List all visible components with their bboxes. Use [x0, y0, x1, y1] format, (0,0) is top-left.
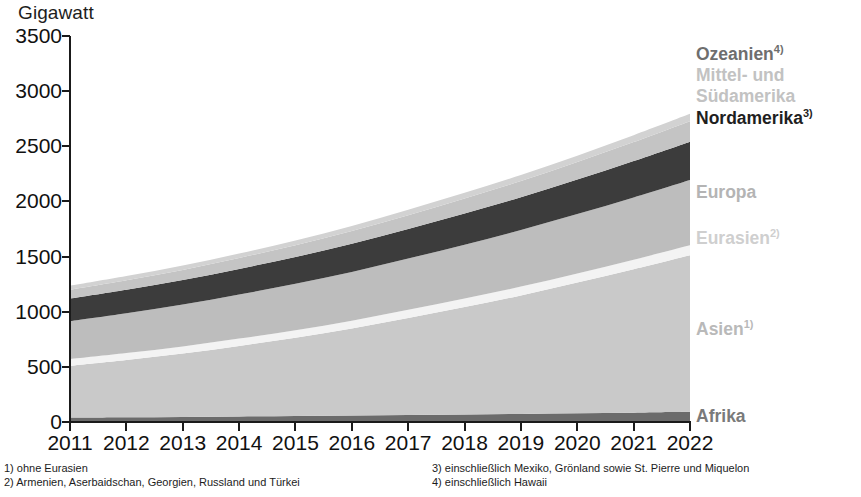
legend-item-asien: Asien1) [696, 319, 753, 339]
x-axis-tick [182, 423, 184, 431]
x-axis-tick-label: 2019 [498, 432, 545, 453]
y-axis-tick [62, 145, 70, 147]
x-axis-tick-label: 2017 [385, 432, 432, 453]
x-axis-tick-label: 2016 [328, 432, 375, 453]
x-axis-tick [69, 423, 71, 431]
footnotes-right-column: 3) einschließlich Mexiko, Grönland sowie… [432, 462, 857, 489]
y-axis-tick-label: 2500 [0, 135, 62, 156]
x-axis-tick [689, 423, 691, 431]
legend-item-label: Europa [696, 182, 756, 202]
y-axis-tick [62, 256, 70, 258]
x-axis-tick-label: 2013 [159, 432, 206, 453]
legend: Ozeanien4)Mittel- undSüdamerikaNordameri… [696, 44, 861, 424]
y-axis-tick-label: 0 [0, 411, 62, 432]
legend-item-label: Nordamerika [696, 108, 803, 128]
y-axis-tick-label: 3000 [0, 80, 62, 101]
legend-item-nordamerika: Nordamerika3) [696, 108, 813, 128]
chart-figure: Gigawatt 0500100015002000250030003500 20… [0, 0, 861, 497]
x-axis-tick-label: 2012 [103, 432, 150, 453]
x-axis-tick [238, 423, 240, 431]
y-axis-tick-label: 1500 [0, 246, 62, 267]
x-axis-tick-label: 2020 [554, 432, 601, 453]
legend-item-footnote-marker: 3) [803, 107, 813, 119]
y-axis-tick-label: 500 [0, 356, 62, 377]
x-axis-tick-label: 2011 [47, 432, 92, 453]
y-axis-tick [62, 311, 70, 313]
legend-item-ozeanien: Ozeanien4) [696, 44, 784, 64]
x-axis-line [69, 421, 691, 423]
x-axis-tick [125, 423, 127, 431]
x-axis-tick [633, 423, 635, 431]
plot-area [70, 36, 690, 422]
legend-item-label: Afrika [696, 406, 746, 426]
x-axis-tick-label: 2021 [610, 432, 657, 453]
footnote-line: 2) Armenien, Aserbaidschan, Georgien, Ru… [4, 476, 424, 490]
x-axis-tick [576, 423, 578, 431]
x-axis-tick-label: 2022 [667, 432, 714, 453]
x-axis-tick [294, 423, 296, 431]
footnote-line: 4) einschließlich Hawaii [432, 476, 857, 490]
footnote-line: 1) ohne Eurasien [4, 462, 424, 476]
x-axis-tick [407, 423, 409, 431]
x-axis-tick [520, 423, 522, 431]
footnote-line: 3) einschließlich Mexiko, Grönland sowie… [432, 462, 857, 476]
legend-item-label: Asien [696, 319, 744, 339]
footnotes-left-column: 1) ohne Eurasien2) Armenien, Aserbaidsch… [4, 462, 424, 489]
x-axis-tick [464, 423, 466, 431]
legend-item-footnote-marker: 1) [744, 318, 754, 330]
stacked-area-svg [70, 36, 690, 422]
y-axis-tick [62, 90, 70, 92]
y-axis-tick [62, 366, 70, 368]
legend-item-label: Südamerika [696, 86, 795, 106]
legend-item-europa: Europa [696, 182, 756, 202]
y-axis-tick-label: 2000 [0, 190, 62, 211]
legend-item-footnote-marker: 2) [770, 227, 780, 239]
footnotes: 1) ohne Eurasien2) Armenien, Aserbaidsch… [0, 462, 861, 497]
x-axis-tick-label: 2015 [272, 432, 319, 453]
legend-item-footnote-marker: 4) [774, 43, 784, 55]
y-axis-tick-label: 1000 [0, 301, 62, 322]
x-axis-tick [351, 423, 353, 431]
x-axis-labels: 2011201220132014201520162017201820192020… [0, 432, 861, 460]
x-axis-tick-label: 2014 [216, 432, 263, 453]
legend-item-mittel-und: Mittel- und [696, 65, 784, 85]
legend-item-label: Eurasien [696, 228, 770, 248]
y-axis-tick [62, 35, 70, 37]
x-axis-tick-label: 2018 [441, 432, 488, 453]
legend-item-label: Ozeanien [696, 44, 774, 64]
legend-item-eurasien: Eurasien2) [696, 228, 780, 248]
y-axis-tick [62, 200, 70, 202]
legend-item-label: Mittel- und [696, 65, 784, 85]
area-bands [70, 114, 690, 422]
y-axis-labels: 0500100015002000250030003500 [0, 0, 62, 497]
legend-item-südamerika: Südamerika [696, 86, 795, 106]
y-axis-tick-label: 3500 [0, 25, 62, 46]
legend-item-afrika: Afrika [696, 406, 746, 426]
